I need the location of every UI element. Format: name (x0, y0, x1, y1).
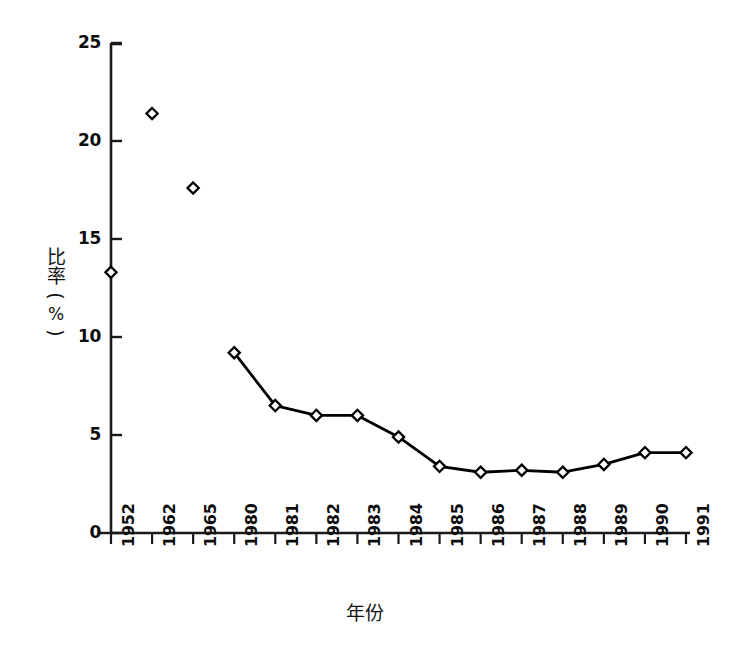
x-axis-ticks (111, 533, 686, 544)
y-tick-label: 15 (59, 228, 101, 248)
x-tick-label: 1984 (407, 503, 426, 547)
series-line-path (234, 353, 686, 473)
x-tick-label: 1985 (448, 503, 467, 547)
x-tick-label: 1962 (160, 503, 179, 547)
x-tick-label: 1982 (324, 503, 343, 547)
data-point-marker (311, 410, 322, 421)
x-tick-label: 1987 (530, 503, 549, 547)
series-markers (105, 108, 691, 478)
x-tick-label: 1980 (242, 503, 261, 547)
x-tick-label: 1989 (612, 503, 631, 547)
data-point-marker (188, 182, 199, 193)
y-axis-ticks (111, 43, 122, 533)
x-tick-label: 1981 (283, 503, 302, 547)
data-point-marker (557, 467, 568, 478)
x-tick-label: 1991 (694, 503, 713, 547)
x-tick-label: 1952 (119, 503, 138, 547)
y-tick-label: 20 (59, 130, 101, 150)
data-point-marker (352, 410, 363, 421)
y-tick-label: 25 (59, 32, 101, 52)
data-point-marker (146, 108, 157, 119)
line-chart-plot (0, 0, 729, 653)
data-point-marker (516, 465, 527, 476)
data-point-marker (598, 459, 609, 470)
y-tick-label: 10 (59, 326, 101, 346)
x-tick-label: 1988 (571, 503, 590, 547)
chart-axes (98, 43, 690, 533)
data-point-marker (475, 467, 486, 478)
y-axis-title-char-2: ( (47, 276, 65, 316)
x-tick-label: 1983 (365, 503, 384, 547)
chart-container: 比 率 ( % ) 0510152025 1952196219651980198… (0, 0, 729, 653)
y-tick-label: 0 (59, 522, 101, 542)
x-tick-label: 1990 (653, 503, 672, 547)
data-point-marker (639, 447, 650, 458)
data-point-marker (105, 267, 116, 278)
data-point-marker (680, 447, 691, 458)
x-tick-label: 1986 (489, 503, 508, 547)
x-tick-label: 1965 (201, 503, 220, 547)
y-tick-label: 5 (59, 424, 101, 444)
x-axis-title: 年份 (0, 598, 729, 625)
data-line (234, 353, 686, 473)
